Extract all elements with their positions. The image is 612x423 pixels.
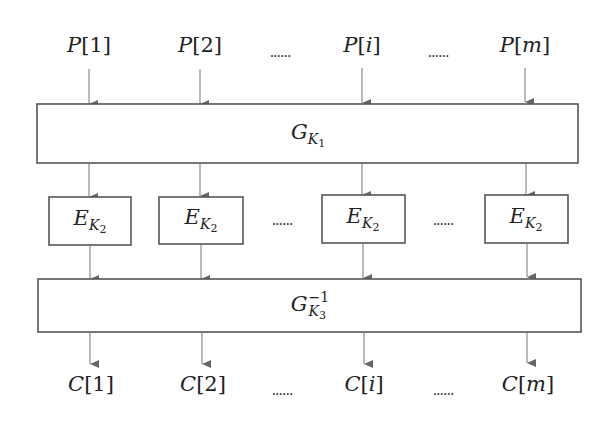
g-to-e-arrows xyxy=(89,162,526,197)
e-to-ginv-arrows xyxy=(90,243,527,279)
k-index: 2 xyxy=(535,221,542,234)
k-symbol: K xyxy=(308,131,318,147)
k-index: 3 xyxy=(319,309,326,322)
g-symbol: G xyxy=(291,292,308,316)
input-index: 2 xyxy=(200,33,213,57)
sup-sub-stack: −1K3 xyxy=(309,290,330,321)
output-ellipsis-1: ...... xyxy=(272,382,293,398)
output-label-2: C[2] xyxy=(180,374,226,395)
output-ellipsis-2: ...... xyxy=(433,382,454,398)
output-label-m: C[m] xyxy=(502,374,554,395)
input-arrows xyxy=(89,68,525,104)
output-prefix: C xyxy=(344,372,360,396)
e-symbol: E xyxy=(510,204,525,228)
input-prefix: P xyxy=(67,33,81,57)
input-label-2: P[2] xyxy=(178,35,222,56)
k-symbol: K xyxy=(362,215,372,231)
k-index: 2 xyxy=(372,221,379,234)
output-index: 2 xyxy=(204,372,217,396)
k-symbol: K xyxy=(200,216,210,232)
middle-ellipsis-1: ...... xyxy=(272,212,293,228)
output-label-1: C[1] xyxy=(68,374,114,395)
k-index: 2 xyxy=(210,222,217,235)
output-index: i xyxy=(369,372,376,396)
output-index: m xyxy=(526,372,546,396)
input-prefix: P xyxy=(343,33,357,57)
e-k2-label-m: EK2 xyxy=(510,204,543,234)
output-prefix: C xyxy=(180,372,196,396)
input-label-i: P[i] xyxy=(343,35,380,56)
output-index: 1 xyxy=(92,372,105,396)
input-index: 1 xyxy=(89,33,102,57)
input-prefix: P xyxy=(500,33,514,57)
output-prefix: C xyxy=(502,372,518,396)
g-inverse-k3-label: G−1K3 xyxy=(291,290,329,321)
input-prefix: P xyxy=(178,33,192,57)
input-ellipsis-2: ...... xyxy=(428,44,449,60)
input-index: m xyxy=(522,33,542,57)
k-symbol: K xyxy=(525,215,535,231)
k-index: 1 xyxy=(318,137,325,150)
e-symbol: E xyxy=(347,204,362,228)
e-symbol: E xyxy=(185,205,200,229)
middle-ellipsis-2: ...... xyxy=(433,212,454,228)
output-arrows xyxy=(90,331,527,364)
k-symbol: K xyxy=(309,303,319,319)
input-label-1: P[1] xyxy=(67,35,111,56)
e-k2-label-2: EK2 xyxy=(185,205,218,235)
inverse-superscript: −1 xyxy=(309,290,330,304)
g-symbol: G xyxy=(291,120,308,144)
k-index: 2 xyxy=(99,223,106,236)
e-k2-label-i: EK2 xyxy=(347,204,380,234)
e-symbol: E xyxy=(74,206,89,230)
input-label-m: P[m] xyxy=(500,35,550,56)
output-label-i: C[i] xyxy=(344,374,383,395)
output-prefix: C xyxy=(68,372,84,396)
k-symbol: K xyxy=(89,217,99,233)
input-ellipsis-1: ...... xyxy=(270,44,291,60)
g-k1-label: GK1 xyxy=(291,120,325,150)
e-k2-label-1: EK2 xyxy=(74,206,107,236)
